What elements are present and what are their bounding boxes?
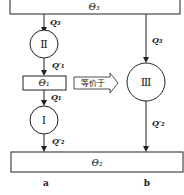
flow-q1-left-label: Q₁ <box>51 92 61 102</box>
equivalence-arrow-label: 等价于 <box>81 78 105 88</box>
arrow-head-icon <box>41 146 47 152</box>
engine-iii-label: Ⅲ <box>141 76 152 89</box>
flow-q2p-left-label: Q′₂ <box>52 136 65 146</box>
arrow-head-icon <box>143 146 149 152</box>
bottom-reservoir-label: Θ₂ <box>92 158 103 168</box>
arrow-head-icon <box>41 70 47 76</box>
engine-ii-label: Ⅱ <box>40 38 47 51</box>
flow-q1p-left-label: Q′₁ <box>52 60 65 70</box>
label-a: a <box>43 178 49 188</box>
label-b: b <box>144 178 150 188</box>
engine-i-label: Ⅰ <box>42 114 46 127</box>
flow-q2p-right-label: Q′₂ <box>152 118 165 128</box>
arrow-head-icon <box>41 100 47 106</box>
arrow-head-icon <box>143 57 149 63</box>
middle-reservoir-label: Θ₁ <box>39 78 50 88</box>
flow-q3-left-label: Q₃ <box>50 17 61 27</box>
top-reservoir-label: Θ₃ <box>89 2 100 12</box>
heat-engine-diagram: Θ₃ Q₃ Ⅱ Q′₁ Θ₁ 等价于 Q₁ Ⅰ Q′₂ Q₃ Ⅲ Q′₂ Θ₂ … <box>0 0 184 195</box>
flow-q3-right-label: Q₃ <box>152 35 163 45</box>
